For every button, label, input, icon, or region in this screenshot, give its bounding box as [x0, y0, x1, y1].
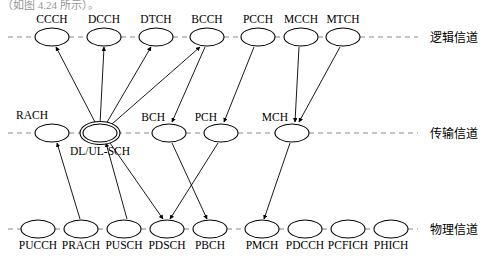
node-rach[interactable]: RACH — [16, 109, 69, 142]
node-label-bcch: BCCH — [191, 13, 222, 25]
node-ellipse-pdcch — [288, 220, 322, 238]
node-ellipse-mtch — [326, 28, 360, 46]
node-label-rach: RACH — [16, 109, 48, 121]
node-ellipse-bch — [152, 124, 186, 142]
node-label-bch: BCH — [141, 111, 165, 123]
node-pdsch[interactable]: PDSCH — [148, 220, 185, 251]
node-ellipse-dtch — [139, 28, 173, 46]
row-label-logical: 逻辑信道 — [430, 31, 478, 45]
node-pusch[interactable]: PUSCH — [105, 220, 142, 251]
node-ccch[interactable]: CCCH — [35, 13, 69, 46]
node-mcch[interactable]: MCCH — [284, 13, 318, 46]
node-label-mch: MCH — [262, 111, 288, 123]
node-ellipse-pdsch — [150, 220, 184, 238]
link-dlulsch-to-ccch — [56, 47, 96, 124]
node-ellipse-pmch — [245, 220, 279, 238]
link-pcch-to-pch — [224, 47, 254, 122]
node-label-dcch: DCCH — [88, 13, 120, 25]
node-label-pdsch: PDSCH — [148, 239, 185, 251]
node-ellipse-dcch — [87, 28, 121, 46]
node-ellipse-bcch — [190, 28, 224, 46]
link-mcch-to-mch — [295, 47, 299, 122]
node-pcch[interactable]: PCCH — [241, 13, 275, 46]
link-mch-to-pmch — [264, 143, 290, 219]
node-label-pdcch: PDCCH — [286, 239, 324, 251]
node-label-pusch: PUSCH — [105, 239, 142, 251]
node-label-dtch: DTCH — [140, 13, 171, 25]
node-label-mtch: MTCH — [326, 13, 359, 25]
node-bch[interactable]: BCH — [141, 111, 186, 142]
node-ellipse-mch — [275, 124, 309, 142]
node-pbch[interactable]: PBCH — [193, 220, 227, 251]
node-ellipse-pch — [204, 124, 238, 142]
row-labels-layer: 逻辑信道传输信道物理信道 — [430, 31, 478, 237]
node-ellipse-pusch — [107, 220, 141, 238]
node-dcch[interactable]: DCCH — [87, 13, 121, 46]
link-mtch-to-mch — [299, 47, 340, 122]
node-label-pucch: PUCCH — [19, 239, 57, 251]
node-ellipse-pbch — [193, 220, 227, 238]
node-pmch[interactable]: PMCH — [245, 220, 279, 251]
node-phich[interactable]: PHICH — [374, 220, 409, 251]
node-ellipse-dlulsch — [83, 124, 117, 142]
node-pcfich[interactable]: PCFICH — [328, 220, 368, 251]
node-pdcch[interactable]: PDCCH — [286, 220, 324, 251]
node-ellipse-pucch — [21, 220, 55, 238]
node-label-prach: PRACH — [62, 239, 100, 251]
node-label-pcch: PCCH — [243, 13, 273, 25]
node-label-pch: PCH — [195, 111, 217, 123]
node-ellipse-pcch — [241, 28, 275, 46]
node-bcch[interactable]: BCCH — [190, 13, 224, 46]
row-label-physical: 物理信道 — [430, 223, 478, 237]
node-pucch[interactable]: PUCCH — [19, 220, 57, 251]
node-label-pmch: PMCH — [246, 239, 279, 251]
node-ellipse-prach — [64, 220, 98, 238]
node-prach[interactable]: PRACH — [62, 220, 100, 251]
node-ellipse-rach — [35, 124, 69, 142]
node-ellipse-ccch — [35, 28, 69, 46]
node-ellipse-phich — [374, 220, 408, 238]
node-label-phich: PHICH — [374, 239, 409, 251]
node-mch[interactable]: MCH — [262, 111, 309, 142]
node-ellipse-pcfich — [331, 220, 365, 238]
link-dlulsch-to-dcch — [100, 47, 104, 124]
node-label-pbch: PBCH — [195, 239, 225, 251]
node-ellipse-mcch — [284, 28, 318, 46]
diagram-root: （如图 4.24 所示）。 CCCHDCCHDTCHBCCHPCCHMCCHMT… — [0, 0, 489, 259]
node-pch[interactable]: PCH — [195, 111, 238, 142]
node-dlulsch[interactable]: DL/UL-SCH — [70, 122, 130, 158]
node-label-ccch: CCCH — [36, 13, 67, 25]
node-mtch[interactable]: MTCH — [326, 13, 360, 46]
node-dtch[interactable]: DTCH — [139, 13, 173, 46]
node-label-pcfich: PCFICH — [328, 239, 368, 251]
channel-mapping-diagram: CCCHDCCHDTCHBCCHPCCHMCCHMTCHRACHDL/UL-SC… — [0, 0, 489, 259]
node-label-dlulsch: DL/UL-SCH — [70, 145, 130, 157]
node-label-mcch: MCCH — [284, 13, 318, 25]
row-label-transport: 传输信道 — [430, 126, 478, 141]
nodes-layer: CCCHDCCHDTCHBCCHPCCHMCCHMTCHRACHDL/UL-SC… — [16, 13, 408, 251]
